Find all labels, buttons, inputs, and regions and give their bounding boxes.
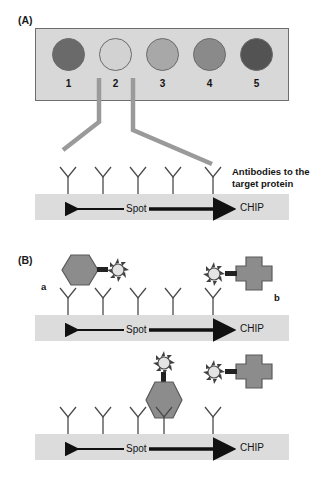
figure-root: (A) 1 2 3 4 5 Antibodies to t [0,0,326,480]
panel-b-bottom-spot-arrows [0,0,326,480]
panel-b-bottom-spot-label: Spot [124,443,149,454]
panel-b-bottom-chip-label: CHIP [240,442,264,453]
